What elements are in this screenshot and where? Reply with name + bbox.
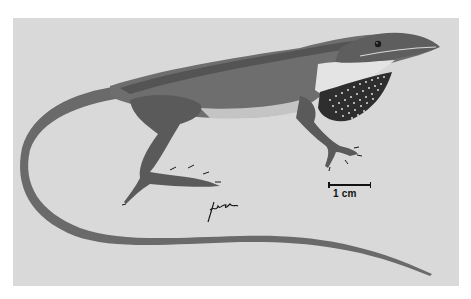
- lizard-illustration: [0, 0, 471, 299]
- scale-bar: [328, 184, 371, 186]
- lizard-eye: [375, 41, 381, 47]
- artist-signature: [208, 202, 238, 222]
- scale-bar-label: 1 cm: [333, 188, 357, 199]
